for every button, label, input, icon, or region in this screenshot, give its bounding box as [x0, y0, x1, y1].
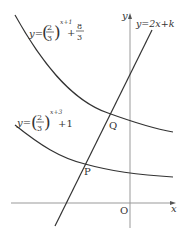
graph-canvas: x y O Q P y=2x+k y= ( 2 3 ) x+1 + 8 3 y=…	[0, 0, 190, 242]
y-axis-arrow-icon	[128, 13, 132, 19]
lower-eq-exponent: x+3	[50, 108, 62, 115]
upper-eq-exponent: x+1	[60, 18, 72, 25]
upper-eq-base-den: 3	[47, 34, 52, 43]
upper-curve-equation: y= ( 2 3 ) x+1 + 8 3	[28, 18, 84, 43]
lower-eq-base-num: 2	[37, 113, 42, 122]
lower-eq-const: +1	[58, 118, 73, 129]
upper-eq-prefix: y=	[28, 28, 43, 39]
upper-eq-const-den: 3	[77, 33, 82, 42]
lower-eq-prefix: y=	[16, 117, 31, 128]
upper-eq-base-num: 2	[47, 23, 52, 32]
lower-eq-rparen: )	[44, 112, 51, 132]
upper-eq-rparen: )	[54, 22, 61, 42]
lower-eq-base-den: 3	[37, 124, 42, 133]
upper-eq-plus: +	[67, 27, 75, 38]
y-axis-label: y	[121, 10, 128, 21]
point-p-label: P	[84, 166, 91, 177]
line-label: y=2x+k	[135, 18, 175, 29]
x-axis-label: x	[171, 203, 177, 214]
upper-eq-const-num: 8	[77, 22, 82, 31]
lower-curve-equation: y= ( 2 3 ) x+3 +1	[16, 108, 73, 133]
origin-label: O	[120, 205, 128, 216]
point-q-label: Q	[109, 120, 117, 131]
